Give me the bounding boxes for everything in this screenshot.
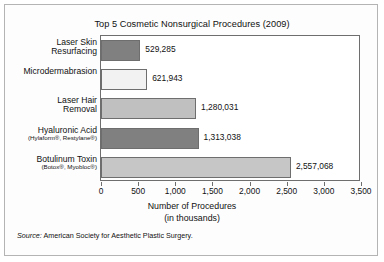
bar-category-label: Laser SkinResurfacing [5,38,101,56]
x-axis-title-main: Number of Procedures [5,201,379,213]
chart-figure: Top 5 Cosmetic Nonsurgical Procedures (2… [4,4,378,256]
bar-row: Hyaluronic Acid(Hylaform®, Restylane®)1,… [101,124,361,153]
bar-value-label: 1,313,038 [204,132,241,142]
bar-category-label: Botulinum Toxin(Botox®, Myobloc®) [5,155,101,171]
bar-category-label: Hyaluronic Acid(Hylaform®, Restylane®) [5,126,101,142]
bar-category-label: Microdermabrasion [5,67,101,76]
bar-value-label: 2,557,068 [296,161,333,171]
source-label: Source: [17,231,42,240]
bar[interactable] [101,69,147,90]
bar-category-label: Laser HairRemoval [5,96,101,114]
bar-value-label: 621,943 [152,73,182,83]
x-tick-label: 1,500 [202,186,223,196]
x-tick-label: 2,000 [239,186,260,196]
bar[interactable] [101,98,196,119]
x-axis-title: Number of Procedures (in thousands) [5,201,379,224]
bar-row: Laser HairRemoval1,280,031 [101,94,361,123]
bar-value-label: 1,280,031 [201,102,238,112]
bar-row: Microdermabrasion621,943 [101,65,361,94]
bar-category-sublabel: (Botox®, Myobloc®) [5,164,97,170]
bar-value-label: 529,285 [145,44,175,54]
source-text: American Society for Aesthetic Plastic S… [43,231,192,240]
x-axis-title-units: (in thousands) [5,213,379,225]
x-tick-label: 3,500 [351,186,372,196]
bar-category-sublabel: (Hylaform®, Restylane®) [5,135,97,141]
source-note: Source: American Society for Aesthetic P… [17,231,193,240]
chart-title: Top 5 Cosmetic Nonsurgical Procedures (2… [5,19,379,29]
bar[interactable] [101,157,291,178]
plot-area: 05001,0001,5002,0002,5003,0003,500 Laser… [100,35,360,181]
x-tick-label: 500 [131,186,145,196]
bar[interactable] [101,128,199,149]
x-tick-label: 3,000 [313,186,334,196]
x-tick-label: 1,000 [165,186,186,196]
x-tick-label: 2,500 [276,186,297,196]
x-tick-label: 0 [99,186,104,196]
bar-category-label-line1: Microdermabrasion [5,67,97,76]
bar[interactable] [101,40,140,61]
bar-row: Botulinum Toxin(Botox®, Myobloc®)2,557,0… [101,153,361,182]
bar-category-label-line2: Removal [5,105,97,114]
bar-row: Laser SkinResurfacing529,285 [101,36,361,65]
bar-category-label-line2: Resurfacing [5,47,97,56]
